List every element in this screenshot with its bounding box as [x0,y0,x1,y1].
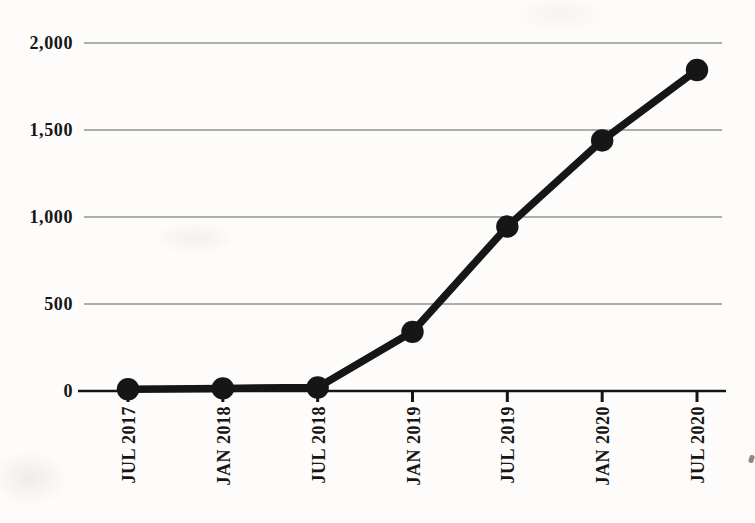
y-axis-tick-label: 2,000 [30,33,74,53]
data-point-marker [591,129,613,151]
x-axis-tick-label: JAN 2020 [593,406,613,486]
x-axis-tick-label: JAN 2018 [214,406,234,486]
y-axis-tick-label: 0 [63,381,73,401]
x-axis-tick-label: JUL 2017 [119,406,139,484]
data-point-marker [401,321,423,343]
y-axis-tick-label: 1,500 [30,120,74,140]
x-axis-tick-label: JUL 2020 [688,406,708,484]
data-point-marker [686,59,708,81]
x-axis-tick-label: JUL 2019 [498,406,518,484]
data-point-marker [212,377,234,399]
x-axis-tick-label: JUL 2018 [309,406,329,484]
x-axis-tick-label: JAN 2019 [404,406,424,486]
data-point-marker [117,378,139,400]
data-point-marker [496,215,518,237]
line-chart: 05001,0001,5002,000JUL 2017JAN 2018JUL 2… [0,0,755,523]
chart-canvas: 05001,0001,5002,000JUL 2017JAN 2018JUL 2… [0,0,755,523]
y-axis-tick-label: 500 [44,294,73,314]
y-axis-tick-label: 1,000 [30,207,74,227]
data-point-marker [306,376,328,398]
